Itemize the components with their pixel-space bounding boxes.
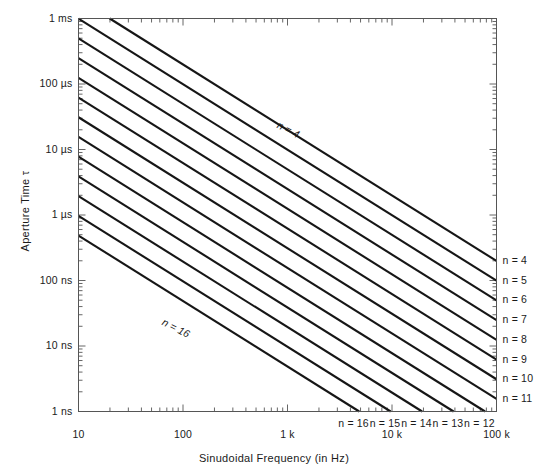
series-label-bottom: n = 15 [370, 417, 401, 429]
x-axis-title: Sinudoidal Frequency (in Hz) [0, 452, 548, 464]
y-tick-label: 1 ns [6, 405, 73, 417]
series-label-right: n = 7 [503, 313, 528, 325]
x-tick-label: 100 [153, 428, 213, 440]
series-label-right: n = 11 [503, 392, 533, 404]
series-label-right: n = 4 [503, 254, 528, 266]
series-label-right: n = 9 [503, 353, 528, 365]
series-label-bottom: n = 14 [401, 417, 432, 429]
series-label-bottom: n = 13 [433, 417, 464, 429]
y-axis-title: Aperture Time τ [19, 141, 31, 281]
y-tick-label: 100 µs [6, 77, 73, 89]
y-tick-label: 1 ms [6, 12, 73, 24]
series-label-right: n = 5 [503, 274, 528, 286]
x-tick-label: 10 k [362, 428, 422, 440]
y-tick-label: 100 ns [6, 274, 73, 286]
series-label-right: n = 10 [503, 372, 534, 384]
series-label-bottom: n = 12 [464, 417, 495, 429]
chart-svg [0, 0, 548, 474]
aperture-time-chart: 1 ms100 µs10 µs1 µs100 ns10 ns1 ns 10100… [0, 0, 548, 474]
x-tick-label: 100 k [467, 428, 527, 440]
series-label-right: n = 8 [503, 333, 528, 345]
series-label-right: n = 6 [503, 293, 528, 305]
y-tick-label: 1 µs [6, 208, 73, 220]
series-label-bottom: n = 16 [338, 417, 369, 429]
x-tick-label: 1 k [258, 428, 318, 440]
x-tick-label: 10 [49, 428, 109, 440]
y-tick-label: 10 µs [6, 143, 73, 155]
y-tick-label: 10 ns [6, 339, 73, 351]
